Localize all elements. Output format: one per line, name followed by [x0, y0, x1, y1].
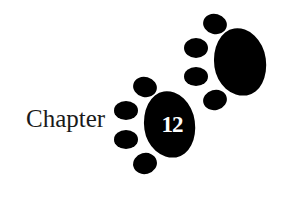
chapter-number: 12 [152, 113, 192, 137]
paw-toe [184, 38, 208, 58]
paw-pad [210, 25, 271, 100]
chapter-label: Chapter [26, 104, 105, 134]
paw-toe [201, 87, 229, 113]
paw-toe [114, 130, 138, 149]
paw-toe [184, 67, 208, 86]
paw-toe [114, 101, 138, 120]
paw-toe [131, 150, 160, 176]
